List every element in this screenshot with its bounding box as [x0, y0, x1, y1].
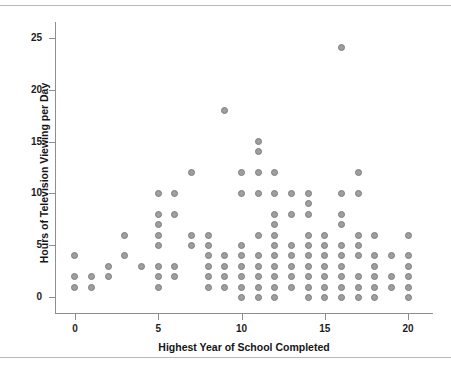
- data-point: [305, 200, 312, 207]
- data-point: [338, 284, 345, 291]
- y-axis-label: Hours of Television Viewing per Day: [38, 43, 50, 303]
- data-point: [338, 221, 345, 228]
- data-point: [88, 284, 95, 291]
- data-point: [371, 263, 378, 270]
- data-point: [255, 169, 262, 176]
- data-point: [271, 232, 278, 239]
- data-point: [338, 252, 345, 259]
- data-point: [355, 252, 362, 259]
- data-point: [155, 232, 162, 239]
- data-point: [388, 284, 395, 291]
- data-point: [155, 190, 162, 197]
- y-tick-label: 0: [2, 292, 42, 302]
- y-tick-label: 10: [2, 188, 42, 198]
- data-point: [271, 190, 278, 197]
- data-point: [155, 284, 162, 291]
- y-tick-mark: [49, 38, 55, 39]
- data-point: [405, 273, 412, 280]
- data-point: [321, 273, 328, 280]
- data-point: [338, 263, 345, 270]
- data-point: [371, 252, 378, 259]
- y-tick-label: 15: [2, 137, 42, 147]
- data-point: [271, 169, 278, 176]
- data-point: [255, 232, 262, 239]
- x-tick-label: 10: [222, 324, 262, 334]
- data-point: [338, 294, 345, 301]
- x-tick-mark: [408, 314, 409, 320]
- data-point: [321, 252, 328, 259]
- data-point: [255, 284, 262, 291]
- data-point: [321, 263, 328, 270]
- data-point: [155, 263, 162, 270]
- data-point: [238, 273, 245, 280]
- data-point: [255, 252, 262, 259]
- data-point: [271, 263, 278, 270]
- data-point: [288, 252, 295, 259]
- data-point: [205, 252, 212, 259]
- data-point: [188, 169, 195, 176]
- data-point: [305, 263, 312, 270]
- data-point: [405, 294, 412, 301]
- data-point: [205, 263, 212, 270]
- data-point: [171, 273, 178, 280]
- data-point: [355, 284, 362, 291]
- data-point: [271, 252, 278, 259]
- data-point: [221, 263, 228, 270]
- data-point: [321, 232, 328, 239]
- data-point: [255, 190, 262, 197]
- x-tick-label: 15: [305, 324, 345, 334]
- x-axis-line: [55, 313, 433, 314]
- x-tick-label: 5: [138, 324, 178, 334]
- y-tick-label: 20: [2, 85, 42, 95]
- data-point: [238, 242, 245, 249]
- data-point: [255, 138, 262, 145]
- data-point: [138, 263, 145, 270]
- data-point: [255, 263, 262, 270]
- data-point: [205, 284, 212, 291]
- data-point: [205, 232, 212, 239]
- data-point: [205, 242, 212, 249]
- data-point: [288, 263, 295, 270]
- data-point: [288, 284, 295, 291]
- data-point: [288, 211, 295, 218]
- data-point: [371, 294, 378, 301]
- data-point: [221, 273, 228, 280]
- data-point: [238, 263, 245, 270]
- data-point: [88, 273, 95, 280]
- data-point: [405, 232, 412, 239]
- data-point: [271, 211, 278, 218]
- data-point: [271, 284, 278, 291]
- y-axis-line: [55, 22, 56, 314]
- x-tick-mark: [242, 314, 243, 320]
- data-point: [288, 190, 295, 197]
- data-point: [288, 273, 295, 280]
- data-point: [255, 294, 262, 301]
- data-point: [321, 284, 328, 291]
- data-point: [338, 44, 345, 51]
- data-point: [338, 190, 345, 197]
- data-point: [405, 252, 412, 259]
- data-point: [271, 221, 278, 228]
- data-point: [371, 284, 378, 291]
- data-point: [171, 190, 178, 197]
- plot-area: 0510152025 05101520 Hours of Television …: [0, 0, 451, 370]
- data-point: [71, 273, 78, 280]
- data-point: [238, 169, 245, 176]
- data-point: [171, 211, 178, 218]
- x-tick-label: 20: [388, 324, 428, 334]
- data-point: [238, 294, 245, 301]
- data-point: [338, 211, 345, 218]
- data-point: [105, 273, 112, 280]
- data-point: [338, 273, 345, 280]
- data-point: [405, 284, 412, 291]
- data-point: [155, 273, 162, 280]
- data-point: [305, 242, 312, 249]
- data-point: [355, 190, 362, 197]
- data-point: [255, 148, 262, 155]
- data-point: [238, 190, 245, 197]
- data-point: [305, 284, 312, 291]
- data-point: [388, 252, 395, 259]
- data-point: [271, 242, 278, 249]
- data-point: [355, 273, 362, 280]
- data-point: [321, 294, 328, 301]
